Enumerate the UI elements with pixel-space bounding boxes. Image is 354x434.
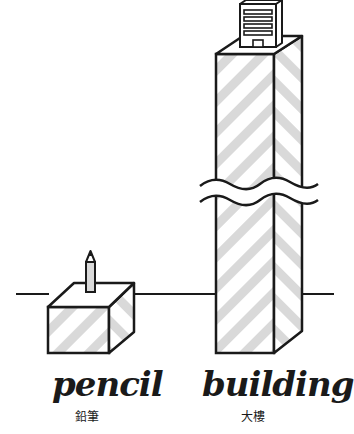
building-label-zh: 大樓 <box>241 407 265 424</box>
pencil-label-zh: 鉛筆 <box>75 407 99 424</box>
pencil-icon <box>86 251 95 292</box>
building-label: building <box>202 364 354 404</box>
building-icon <box>240 0 282 47</box>
pencil-label: pencil <box>52 364 163 404</box>
pencil-cube <box>48 283 134 353</box>
